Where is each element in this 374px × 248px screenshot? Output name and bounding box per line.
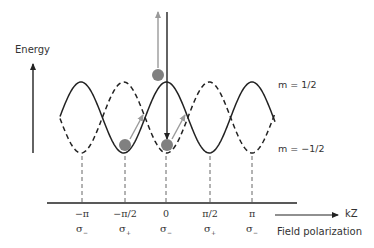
polarization-label-minus-pi: σ− bbox=[76, 224, 88, 236]
atom-excited bbox=[152, 69, 164, 81]
label-m-plus-half: m = 1/2 bbox=[278, 80, 317, 90]
tick-label-minus-pi-half: −π/2 bbox=[113, 209, 136, 219]
label-m-minus-half: m = −1/2 bbox=[278, 144, 325, 154]
polarization-label-pi: σ− bbox=[246, 224, 258, 236]
atom-left-well bbox=[119, 139, 131, 151]
tick-label-zero: 0 bbox=[163, 209, 169, 219]
polarization-label-zero: σ− bbox=[160, 224, 172, 236]
field-polarization-caption: Field polarization bbox=[277, 227, 362, 237]
tick-label-pi-half: π/2 bbox=[202, 209, 218, 219]
tick-label-pi: π bbox=[249, 209, 255, 219]
kz-axis-label: kZ bbox=[345, 209, 358, 219]
tick-label-minus-pi: −π bbox=[75, 209, 89, 219]
gray-arrow-diagonal-center bbox=[172, 115, 185, 139]
guide-lines bbox=[82, 156, 252, 203]
energy-diagram bbox=[0, 0, 374, 248]
energy-axis-label: Energy bbox=[15, 45, 50, 55]
polarization-label-pi-half: σ+ bbox=[204, 224, 216, 236]
polarization-label-minus-pi-half: σ+ bbox=[119, 224, 131, 236]
atom-center-well bbox=[161, 139, 173, 151]
